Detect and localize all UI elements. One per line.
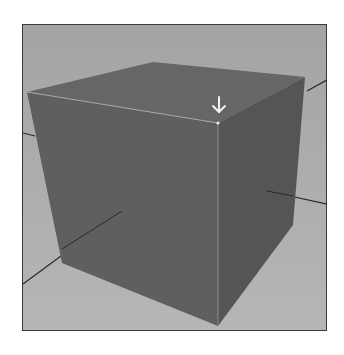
selected-vertex bbox=[216, 121, 219, 124]
cube-scene bbox=[0, 0, 344, 355]
